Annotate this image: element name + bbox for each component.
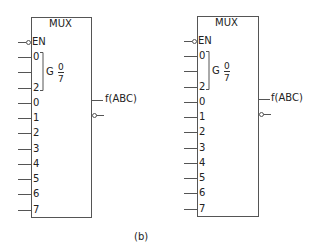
mux-left-output-label: f(ABC) [105,94,137,104]
diagram-lines [0,0,319,245]
figure-caption: (b) [134,232,148,242]
mux-right-title: MUX [215,18,238,28]
mux-right-body [198,17,259,217]
mux-left-data-3: 3 [33,144,39,154]
mux-left-data-2: 2 [33,128,39,138]
mux-left-enable-label: EN [32,37,46,47]
mux-left-data-4: 4 [33,159,39,169]
mux-left-group-numerator: 0 [58,62,64,72]
mux-right-data-0: 0 [199,97,205,107]
mux-right-data-2: 2 [199,127,205,137]
mux-right-data-3: 3 [199,143,205,153]
mux-left-en-bubble [27,41,31,45]
mux-right-group-denominator: 7 [224,73,230,83]
mux-left-data-0: 0 [33,98,39,108]
mux-right-output-label: f(ABC) [271,93,303,103]
mux-left-body [32,18,92,218]
mux-left-select-0: 0 [33,52,39,62]
mux-right-data-1: 1 [199,112,205,122]
mux-left-group-denominator: 7 [58,74,64,84]
mux-left-data-7: 7 [33,205,39,215]
mux-right-enable-label: EN [198,36,212,46]
mux-right-data-4: 4 [199,158,205,168]
mux-left-data-6: 6 [33,189,39,199]
mux-left-data-5: 5 [33,174,39,184]
mux-left-select-2: 2 [33,83,39,93]
mux-left-group-letter: G [46,67,54,77]
mux-left-data-1: 1 [33,113,39,123]
mux-right-data-5: 5 [199,173,205,183]
mux-right-group-numerator: 0 [224,61,230,71]
mux-left-title: MUX [49,19,72,29]
mux-right-data-7: 7 [199,204,205,214]
mux-right-select-0: 0 [199,51,205,61]
mux-right-select-2: 2 [199,82,205,92]
mux-right-group-letter: G [212,66,220,76]
mux-right-data-6: 6 [199,188,205,198]
